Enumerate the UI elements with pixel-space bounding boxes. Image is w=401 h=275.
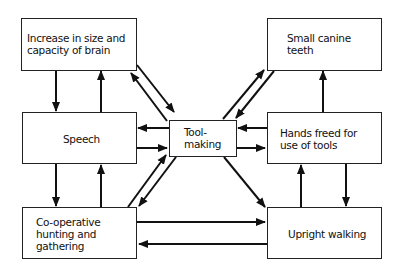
- node-hunting: Co-operative hunting and gathering: [22, 207, 137, 259]
- node-hands-label: Hands freed for use of tools: [280, 127, 357, 151]
- node-toolmaking: Tool- making: [169, 120, 237, 157]
- node-walking-label: Upright walking: [288, 228, 366, 240]
- node-walking: Upright walking: [267, 207, 382, 259]
- node-hands: Hands freed for use of tools: [267, 112, 382, 164]
- node-speech: Speech: [22, 112, 137, 164]
- arrow-toolmaking-to-hunting: [139, 157, 176, 206]
- arrow-toolmaking-to-walking: [224, 157, 265, 207]
- node-speech-label: Speech: [63, 133, 100, 145]
- arrow-teeth-to-toolmaking: [236, 71, 274, 118]
- node-hunting-label: Co-operative hunting and gathering: [36, 216, 100, 252]
- node-toolmaking-label: Tool- making: [184, 126, 221, 150]
- node-teeth: Small canine teeth: [267, 18, 382, 71]
- node-brain-label: Increase in size and capacity of brain: [27, 32, 125, 56]
- node-brain: Increase in size and capacity of brain: [21, 18, 137, 71]
- node-teeth-label: Small canine teeth: [287, 32, 351, 56]
- arrow-toolmaking-to-teeth: [223, 70, 264, 119]
